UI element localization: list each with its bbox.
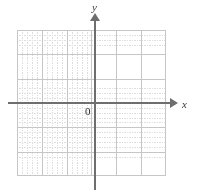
x-axis-label: x (182, 99, 187, 110)
y-axis-label: y (92, 2, 97, 13)
grid-bottom-edge (17, 175, 166, 176)
origin-label: 0 (85, 106, 91, 117)
coordinate-grid-figure: x y 0 (0, 0, 198, 192)
x-axis (8, 102, 172, 104)
y-axis (94, 16, 96, 190)
y-axis-arrow-icon (90, 13, 100, 21)
x-axis-arrow-icon (170, 98, 178, 108)
